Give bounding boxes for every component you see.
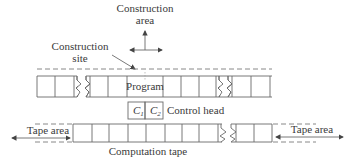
- computation-tape: Tape area Tape area Computation tape: [12, 123, 343, 157]
- control-head: C1 C2 Control head: [128, 102, 225, 119]
- construction-area-label-line2: area: [136, 14, 154, 26]
- control-head-label: Control head: [167, 104, 225, 116]
- tape-area-left-label: Tape area: [27, 124, 69, 136]
- construction-site-label-line2: site: [72, 52, 87, 64]
- construction-site: Construction site: [52, 40, 135, 69]
- computation-tape-label: Computation tape: [109, 145, 188, 157]
- turing-machine-diagram: Construction area Construction site: [0, 0, 356, 163]
- program-tape: Program: [37, 69, 272, 97]
- tape-area-right-label: Tape area: [291, 123, 333, 135]
- c2-label: C2: [150, 104, 161, 118]
- program-label: Program: [126, 80, 164, 92]
- construction-site-label-line1: Construction: [52, 40, 109, 52]
- pointer-line: [112, 55, 135, 69]
- construction-area: Construction area: [117, 2, 174, 50]
- c1-label: C1: [133, 104, 144, 118]
- construction-area-label-line1: Construction: [117, 2, 174, 14]
